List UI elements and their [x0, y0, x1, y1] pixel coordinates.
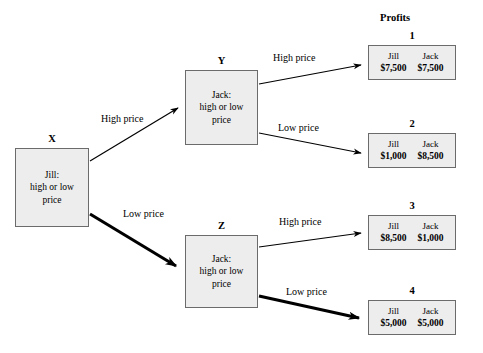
edge-label-z-high-price: High price — [279, 216, 322, 228]
payoff-tag-3: 3 — [368, 200, 456, 211]
node-tag-z: Z — [185, 220, 258, 231]
payoff-4-left-name: Jill — [375, 306, 412, 317]
payoff-1-left-name: Jill — [375, 51, 412, 62]
payoff-tag-2: 2 — [368, 118, 456, 129]
node-z-line-2: high or low — [200, 265, 244, 278]
payoff-box-4: Jill Jack $5,000 $5,000 — [368, 300, 456, 335]
edge-y-to-payoff-2-low-price — [259, 133, 361, 153]
payoff-3-right-value: $1,000 — [412, 232, 449, 244]
payoff-2-left-value: $1,000 — [375, 150, 412, 162]
edge-x-to-z-low-price — [90, 214, 176, 266]
payoff-2-left-name: Jill — [375, 139, 412, 150]
payoff-1-right-name: Jack — [412, 51, 449, 62]
edge-y-to-payoff-1-high-price — [259, 65, 361, 84]
node-z-line-3: price — [212, 278, 231, 291]
edge-label-y-high-price: High price — [273, 52, 316, 64]
node-y-line-3: price — [212, 114, 231, 127]
payoff-4-left-value: $5,000 — [375, 317, 412, 329]
node-tag-y: Y — [185, 55, 258, 66]
decision-node-z[interactable]: Jack: high or low price — [185, 235, 258, 308]
payoff-2-right-name: Jack — [412, 139, 449, 150]
node-x-line-3: price — [43, 194, 62, 207]
payoff-2-right-value: $8,500 — [412, 150, 449, 162]
profits-heading: Profits — [380, 12, 410, 23]
payoff-box-3: Jill Jack $8,500 $1,000 — [368, 215, 456, 250]
edge-label-x-low-price: Low price — [123, 208, 164, 220]
game-tree-diagram: Profits X Jill: high or low price Y Jack… — [0, 0, 483, 353]
decision-node-y[interactable]: Jack: high or low price — [185, 70, 258, 145]
payoff-4-right-value: $5,000 — [412, 317, 449, 329]
edge-label-y-low-price: Low price — [278, 122, 319, 134]
edge-z-to-payoff-4-low-price — [259, 296, 359, 318]
payoff-box-2: Jill Jack $1,000 $8,500 — [368, 133, 456, 168]
node-x-line-1: Jill: — [45, 169, 59, 182]
payoff-box-1: Jill Jack $7,500 $7,500 — [368, 45, 456, 80]
node-x-line-2: high or low — [30, 181, 74, 194]
edge-label-z-low-price: Low price — [286, 286, 327, 298]
payoff-3-left-name: Jill — [375, 221, 412, 232]
payoff-3-right-name: Jack — [412, 221, 449, 232]
node-tag-x: X — [15, 133, 89, 144]
node-y-line-2: high or low — [200, 101, 244, 114]
payoff-tag-1: 1 — [368, 30, 456, 41]
payoff-1-left-value: $7,500 — [375, 62, 412, 74]
decision-node-x[interactable]: Jill: high or low price — [15, 148, 89, 227]
payoff-tag-4: 4 — [368, 285, 456, 296]
payoff-1-right-value: $7,500 — [412, 62, 449, 74]
edge-label-x-high-price: High price — [101, 113, 144, 125]
node-y-line-1: Jack: — [212, 89, 232, 102]
edge-z-to-payoff-3-high-price — [259, 233, 361, 247]
payoff-3-left-value: $8,500 — [375, 232, 412, 244]
node-z-line-1: Jack: — [212, 253, 232, 266]
payoff-4-right-name: Jack — [412, 306, 449, 317]
